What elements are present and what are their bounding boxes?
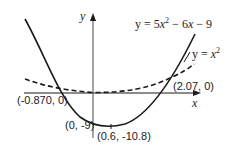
parabola-equation: y = 5x2 − 6x − 9 (135, 16, 212, 31)
point-label-right-root: (2.07, 0) (173, 80, 214, 92)
parabola-curve (25, 19, 195, 126)
y-axis-arrow-icon (90, 13, 96, 21)
point-label-y-intercept: (0, -9) (65, 119, 94, 131)
point-label-vertex: (0.6, -10.8) (97, 130, 151, 142)
point-label-left-root: (-0.870, 0) (17, 94, 68, 106)
graph-canvas: y x y = 5x2 − 6x − 9 y = x2 (-0.870, 0) … (0, 0, 234, 150)
y-axis-label: y (79, 9, 86, 23)
dashed-curve-equation: y = x2 (192, 46, 220, 61)
x-axis-label: x (191, 96, 198, 110)
dashed-curve (25, 64, 194, 93)
